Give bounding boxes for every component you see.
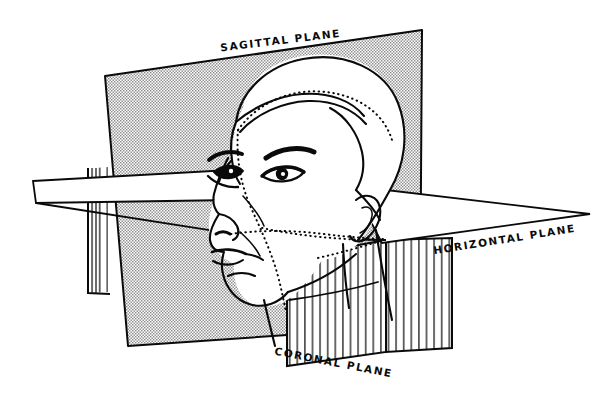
horizontal-plane-left-sheet (33, 170, 232, 203)
anatomical-planes-figure: SAGITTAL PLANE HORIZONTAL PLANE CORONAL … (0, 0, 611, 402)
eye-profile-highlight (229, 169, 233, 173)
eye-right-pupil-highlight (281, 172, 285, 176)
coronal-plane-right-panel-fill (386, 238, 452, 352)
planes-diagram-svg: SAGITTAL PLANE HORIZONTAL PLANE CORONAL … (0, 0, 611, 402)
